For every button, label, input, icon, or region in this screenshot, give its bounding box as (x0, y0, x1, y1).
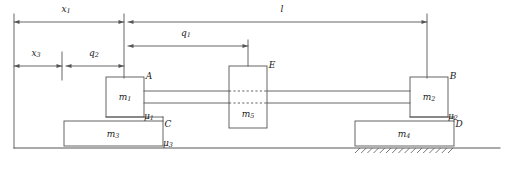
hatch-stroke (361, 148, 366, 153)
dimension-q1-arrow-left (128, 44, 134, 48)
hatch-stroke (423, 148, 428, 153)
mass-label-m5: m5 (242, 109, 255, 120)
mass-label-m1: m1 (119, 92, 132, 103)
dimension-x3-arrow-right (57, 64, 63, 68)
hatch-stroke (417, 148, 422, 153)
dimension-x1-arrow-right (119, 20, 125, 24)
point-label-E: E (268, 60, 276, 70)
hatch-stroke (374, 148, 379, 153)
friction-label-mu2: μ2 (448, 111, 458, 122)
point-label-A: A (145, 71, 153, 81)
friction-label-mu1: μ1 (144, 111, 154, 122)
hatch-stroke (355, 148, 360, 153)
hatch-stroke (436, 148, 441, 153)
dimension-q1-arrow-right (243, 44, 249, 48)
dimension-q1-label: q1 (181, 28, 191, 39)
dimension-l-label: l (281, 4, 284, 14)
dimension-x1-label: x1 (61, 4, 70, 15)
hatch-stroke (380, 148, 385, 153)
dimension-q2-label: q2 (89, 48, 99, 59)
hatch-stroke (411, 148, 416, 153)
point-label-C: C (165, 119, 172, 129)
point-label-B: B (449, 71, 457, 81)
hatch-stroke (392, 148, 397, 153)
dimension-x3-arrow-left (14, 64, 20, 68)
hatch-stroke (448, 148, 453, 153)
hatch-stroke (442, 148, 447, 153)
mechanical-system-diagram: x1lq1x3q2m1m5m2m3m4AEBCDμ1μ2μ3 (0, 0, 507, 169)
mass-label-m2: m2 (423, 92, 436, 103)
dimension-q2-arrow-right (119, 64, 125, 68)
dimension-x3-label: x3 (31, 48, 40, 59)
ground-hatching (355, 148, 453, 153)
diagram-canvas: x1lq1x3q2m1m5m2m3m4AEBCDμ1μ2μ3 (0, 0, 507, 169)
hatch-stroke (367, 148, 372, 153)
dimension-l-arrow-right (422, 20, 428, 24)
mass-label-m3: m3 (107, 129, 120, 140)
dimension-l-arrow-left (128, 20, 134, 24)
hatch-stroke (386, 148, 391, 153)
dimension-q2-arrow-left (66, 64, 72, 68)
mass-label-m4: m4 (398, 129, 411, 140)
hatch-stroke (398, 148, 403, 153)
hatch-stroke (429, 148, 434, 153)
hatch-stroke (405, 148, 410, 153)
dimension-x1-arrow-left (14, 20, 20, 24)
